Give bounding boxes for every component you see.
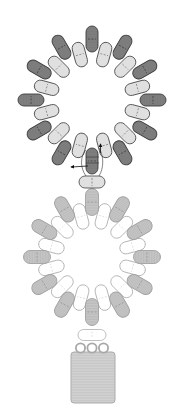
jump-ring	[99, 343, 108, 352]
outer-bead	[86, 189, 99, 216]
pendant-outline	[71, 352, 115, 403]
findings	[71, 343, 115, 403]
jump-ring	[87, 343, 96, 352]
outer-bead	[134, 251, 161, 264]
outer-bead	[18, 94, 44, 106]
outer-bead	[86, 299, 99, 326]
outer-bead	[86, 148, 98, 174]
outer-bead	[86, 26, 98, 52]
connector-bead-upper	[79, 176, 105, 188]
connector-bead-lower	[78, 330, 106, 341]
outer-bead	[24, 251, 51, 264]
beading-diagram	[0, 0, 182, 409]
outer-bead	[140, 94, 166, 106]
jump-ring	[76, 343, 85, 352]
